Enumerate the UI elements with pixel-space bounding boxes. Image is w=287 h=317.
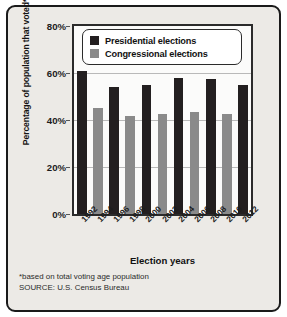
chart-legend: Presidential elections Congressional ele… bbox=[82, 29, 242, 65]
bar-1994 bbox=[93, 108, 103, 214]
bar-2012 bbox=[238, 85, 248, 214]
y-tick-label-20: 20% bbox=[22, 162, 66, 173]
bar-2010 bbox=[222, 114, 232, 214]
y-tick-mark-80 bbox=[66, 26, 70, 27]
bar-2006 bbox=[190, 112, 200, 214]
legend-label-presidential: Presidential elections bbox=[105, 36, 196, 46]
x-axis-title: Election years bbox=[72, 255, 253, 266]
bar-2004 bbox=[174, 78, 184, 214]
bar-1992 bbox=[77, 71, 87, 214]
y-tick-label-40: 40% bbox=[22, 115, 66, 126]
legend-label-congressional: Congressional elections bbox=[105, 49, 208, 59]
footnote-text: *based on total voting age population bbox=[19, 271, 269, 282]
y-axis-tick-labels: 0%20%40%60%80% bbox=[22, 24, 70, 216]
source-text: SOURCE: U.S. Census Bureau bbox=[19, 282, 269, 293]
bar-2000 bbox=[142, 85, 152, 214]
y-tick-mark-60 bbox=[66, 73, 70, 74]
bar-2008 bbox=[206, 79, 216, 214]
chart-notes: *based on total voting age population SO… bbox=[19, 271, 269, 293]
y-tick-label-80: 80% bbox=[22, 21, 66, 32]
y-tick-mark-40 bbox=[66, 120, 70, 121]
x-axis-tick-labels: 1992199419961998200020022004200620082010… bbox=[72, 217, 253, 251]
y-tick-label-0: 0% bbox=[22, 209, 66, 220]
legend-swatch-presidential-icon bbox=[90, 36, 99, 45]
y-tick-mark-20 bbox=[66, 167, 70, 168]
bar-1998 bbox=[125, 116, 135, 214]
chart-figure: Percentage of population that voted* 0%2… bbox=[6, 5, 281, 312]
legend-swatch-congressional-icon bbox=[90, 49, 99, 58]
bar-1996 bbox=[109, 87, 119, 214]
y-tick-mark-0 bbox=[66, 214, 70, 215]
legend-item-presidential: Presidential elections bbox=[90, 34, 235, 47]
bar-2002 bbox=[158, 114, 168, 214]
legend-item-congressional: Congressional elections bbox=[90, 47, 235, 60]
y-tick-label-60: 60% bbox=[22, 68, 66, 79]
